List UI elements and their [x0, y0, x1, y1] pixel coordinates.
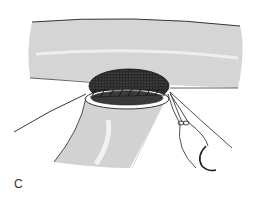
- needle-holder: [168, 94, 208, 168]
- curved-needle: [200, 146, 216, 171]
- left-suture-thread: [14, 94, 86, 132]
- panel-label: C: [14, 178, 23, 190]
- right-suture-threads: [170, 92, 232, 148]
- anastomosis-illustration: [0, 0, 256, 204]
